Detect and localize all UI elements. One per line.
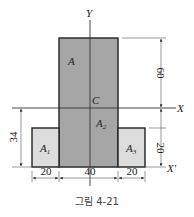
dim-label-34: 34 [7,131,19,143]
figure-caption: 그림 4-21 [75,196,119,207]
x-axis-label: X [176,102,185,114]
dim-label-20-right: 20 [155,143,167,155]
composite-area-diagram: Y X C X' A A2 A1 A3 60 20 34 20 40 20 그림… [0,0,194,217]
dim-label-60: 60 [155,68,167,80]
x-prime-label: X' [166,162,177,174]
dim-label-20-bottom-right: 20 [127,165,139,177]
region-A2-sub: 2 [103,123,107,131]
region-A-label: A [67,55,75,67]
dim-label-40: 40 [85,165,97,177]
region-A1-sub: 1 [47,148,51,156]
region-A3-sub: 3 [132,148,137,156]
y-axis-label: Y [86,7,94,19]
dim-label-20-left: 20 [41,165,53,177]
centroid-label: C [92,94,100,106]
